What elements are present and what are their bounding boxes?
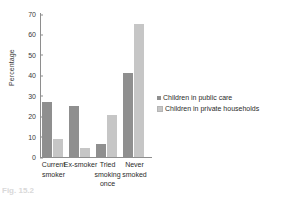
figure-caption-remnant: Fig. 15.2 [2,186,34,197]
y-axis-tick-20: 20 [28,113,40,120]
bar [134,24,144,157]
y-tick-label: 40 [28,72,36,79]
legend-label: Children in private households [165,105,259,112]
bar-group [94,14,121,157]
figure-container: Percentage 010203040506070 Currentsmoker… [0,0,284,197]
y-axis-tick-50: 50 [28,51,40,58]
x-axis-line [40,157,152,158]
y-axis-tick-70: 70 [28,11,40,18]
bar [80,148,90,157]
y-axis-tick-10: 10 [28,133,40,140]
bar-group [40,14,67,157]
plot-area: 010203040506070 [40,14,148,157]
y-axis-title: Percentage [8,49,15,86]
bar [42,102,52,157]
bar [123,73,133,157]
y-tick-label: 70 [28,11,36,18]
legend-label: Children in public care [163,94,232,101]
y-axis-tick-40: 40 [28,72,40,79]
y-tick-label: 60 [28,31,36,38]
bar [69,106,79,157]
x-axis-tick-labels: CurrentsmokerEx-smokerTriedsmokingonceNe… [40,160,152,196]
y-tick-label: 10 [28,133,36,140]
y-axis-tick-60: 60 [28,31,40,38]
legend-item: Children in public care [157,92,259,103]
x-tick-label: Neversmoked [115,160,155,179]
legend-swatch-icon [157,106,163,112]
y-tick-label: 20 [28,113,36,120]
y-tick-label: 50 [28,51,36,58]
y-tick-label: 30 [28,92,36,99]
bar [107,115,117,157]
bar [53,139,63,157]
legend-item: Children in private households [157,103,259,114]
bar [96,144,106,157]
bar-group [121,14,148,157]
legend-swatch-icon [157,96,161,100]
y-axis-tick-30: 30 [28,92,40,99]
chart-legend: Children in public careChildren in priva… [157,92,259,114]
bar-group [67,14,94,157]
y-tick-mark [40,157,43,158]
